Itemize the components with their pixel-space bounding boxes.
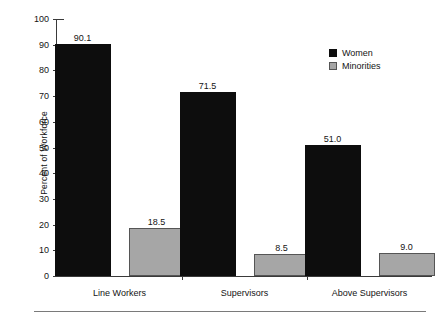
bar-group: 71.58.5Supervisors xyxy=(182,19,307,276)
legend-item-minorities: Minorities xyxy=(329,59,381,72)
x-axis-label-above-supervisors: Above Supervisors xyxy=(332,288,408,298)
bar-chart-figure: Percent of Workforce 1009080706050403020… xyxy=(0,0,448,324)
x-tick-mark xyxy=(182,276,183,280)
bar-value-label: 71.5 xyxy=(199,81,217,91)
y-tick-label: 50 xyxy=(39,143,49,153)
y-tick-label: 0 xyxy=(44,271,49,281)
y-tick-label: 80 xyxy=(39,65,49,75)
bar-group: 90.118.5Line Workers xyxy=(57,19,182,276)
bar-value-label: 90.1 xyxy=(74,33,92,43)
bar-women-above-supervisors: 51.0 xyxy=(305,145,361,276)
legend-label-women: Women xyxy=(342,48,373,58)
legend-label-minorities: Minorities xyxy=(342,61,381,71)
bar-value-label: 8.5 xyxy=(275,243,288,253)
legend-item-women: Women xyxy=(329,46,381,59)
x-axis-label-supervisors: Supervisors xyxy=(221,288,269,298)
y-tick-label: 10 xyxy=(39,245,49,255)
bar-minorities-line-workers: 18.5 xyxy=(129,228,185,276)
footer-divider xyxy=(34,311,426,312)
y-tick-label: 20 xyxy=(39,220,49,230)
y-tick-label: 40 xyxy=(39,168,49,178)
y-tick-label: 30 xyxy=(39,194,49,204)
bar-value-label: 9.0 xyxy=(400,242,413,252)
x-tick-mark xyxy=(307,276,308,280)
y-tick-mark xyxy=(53,276,57,277)
chart-legend: Women Minorities xyxy=(329,46,381,72)
y-tick-label: 90 xyxy=(39,40,49,50)
black-square-swatch-icon xyxy=(329,49,337,57)
gray-square-swatch-icon xyxy=(329,62,337,70)
y-axis-title: Percent of Workforce xyxy=(39,63,49,243)
bar-minorities-above-supervisors: 9.0 xyxy=(379,253,435,276)
bar-women-supervisors: 71.5 xyxy=(180,92,236,276)
bar-value-label: 18.5 xyxy=(148,217,166,227)
y-tick-label: 100 xyxy=(34,14,49,24)
bar-minorities-supervisors: 8.5 xyxy=(254,254,310,276)
bar-value-label: 51.0 xyxy=(324,134,342,144)
y-tick-label: 60 xyxy=(39,117,49,127)
x-axis-label-line-workers: Line Workers xyxy=(93,288,146,298)
y-tick-label: 70 xyxy=(39,91,49,101)
bar-women-line-workers: 90.1 xyxy=(55,44,111,276)
